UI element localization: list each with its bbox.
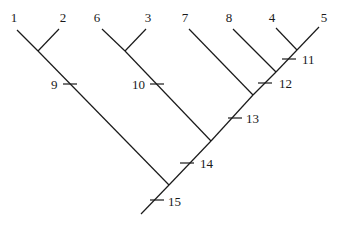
branch-line bbox=[125, 29, 146, 51]
leaf-label: 5 bbox=[321, 10, 328, 25]
branch-line bbox=[38, 29, 59, 51]
branch-line bbox=[17, 30, 38, 51]
branch-line bbox=[297, 27, 319, 50]
tick-labels: 9101112131415 bbox=[51, 52, 315, 209]
branch-line bbox=[38, 51, 169, 185]
leaf-label: 7 bbox=[182, 10, 189, 25]
branch-line bbox=[233, 29, 276, 72]
tick-label: 12 bbox=[279, 76, 292, 91]
branch-ticks bbox=[63, 59, 296, 200]
tree-edges bbox=[17, 27, 319, 214]
leaf-label: 1 bbox=[11, 10, 18, 25]
branch-line bbox=[102, 29, 125, 51]
tick-label: 9 bbox=[51, 77, 58, 92]
leaf-label: 6 bbox=[94, 10, 101, 25]
tick-label: 11 bbox=[302, 52, 315, 67]
cladogram-diagram: 12637845 9101112131415 bbox=[0, 0, 338, 226]
tick-label: 10 bbox=[132, 77, 145, 92]
tick-label: 14 bbox=[200, 156, 214, 171]
branch-line bbox=[276, 28, 297, 50]
branch-line bbox=[125, 51, 211, 141]
leaf-label: 2 bbox=[60, 10, 67, 25]
tick-label: 15 bbox=[168, 194, 181, 209]
leaf-label: 3 bbox=[145, 10, 152, 25]
branch-line bbox=[276, 50, 297, 72]
leaf-label: 4 bbox=[269, 10, 276, 25]
leaf-label: 8 bbox=[226, 10, 233, 25]
leaf-labels: 12637845 bbox=[11, 10, 328, 25]
tick-label: 13 bbox=[246, 111, 259, 126]
